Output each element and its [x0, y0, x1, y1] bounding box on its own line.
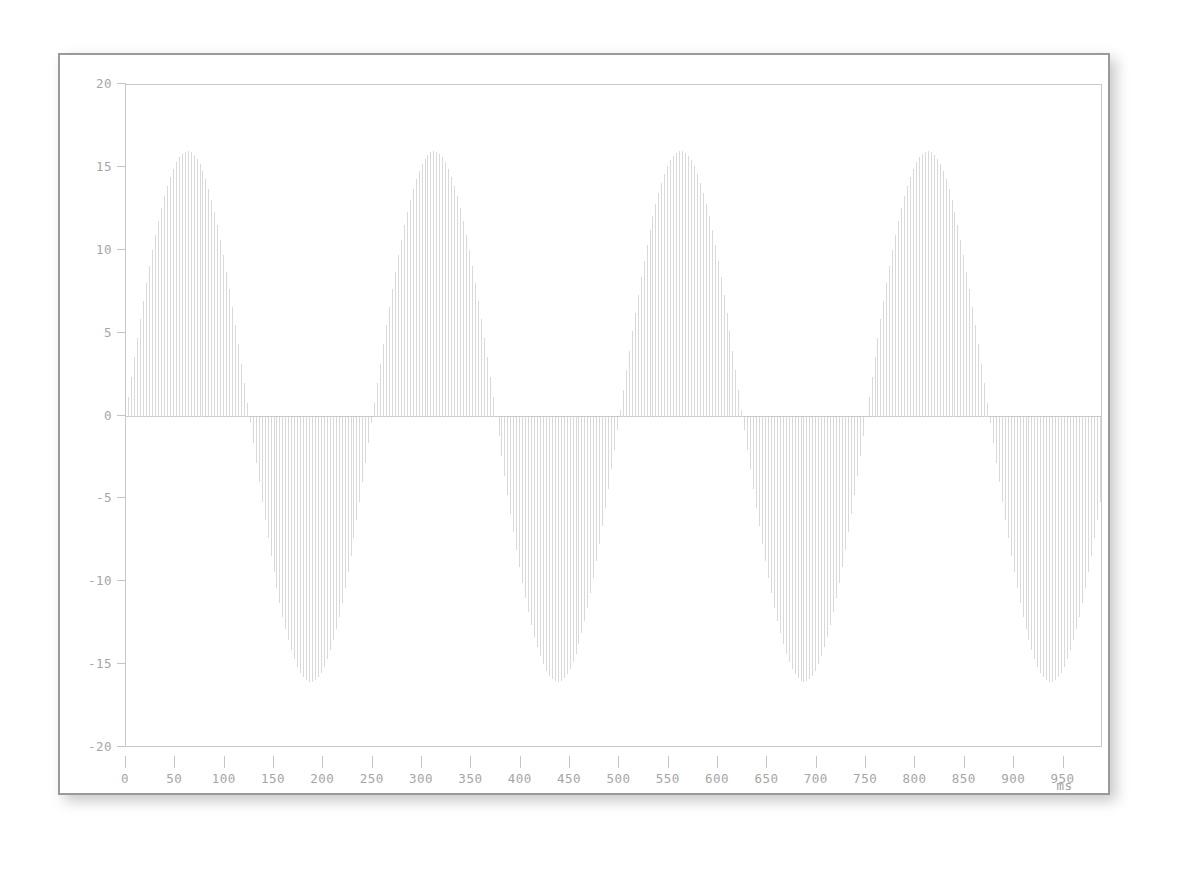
x-axis-tick-mark: [569, 756, 570, 768]
x-axis-tick-mark: [618, 756, 619, 768]
x-axis-tick-mark: [865, 756, 866, 768]
x-axis-tick-mark: [668, 756, 669, 768]
x-axis-unit-label: ms: [1056, 778, 1072, 793]
y-axis-tick-label: -10: [88, 574, 112, 588]
x-axis-tick-label: 550: [656, 771, 680, 786]
x-axis-tick-label: 500: [606, 771, 630, 786]
y-axis: 20151050-5-10-15-20: [60, 55, 126, 793]
x-axis-tick-label: 50: [166, 771, 182, 786]
x-axis-tick-label: 200: [310, 771, 334, 786]
x-axis-tick-label: 750: [853, 771, 877, 786]
x-axis-tick-mark: [125, 756, 126, 768]
x-axis-tick-label: 0: [121, 771, 129, 786]
plot-window: 20151050-5-10-15-20 05010015020025030035…: [58, 53, 1110, 795]
y-axis-tick-label: -15: [88, 657, 112, 671]
y-axis-tick-label: 10: [96, 243, 112, 257]
x-axis-tick-mark: [1013, 756, 1014, 768]
y-axis-tick-label: 20: [96, 77, 112, 91]
x-axis-tick-label: 250: [360, 771, 384, 786]
y-axis-tick-label: 5: [104, 326, 112, 340]
x-axis-tick-label: 100: [212, 771, 236, 786]
y-axis-tick-label: -5: [96, 491, 112, 505]
x-axis-tick-label: 400: [508, 771, 532, 786]
plot-window-root: 20151050-5-10-15-20 05010015020025030035…: [0, 0, 1179, 875]
x-axis-tick-mark: [520, 756, 521, 768]
x-axis-tick-mark: [322, 756, 323, 768]
x-axis-tick-mark: [766, 756, 767, 768]
x-axis-tick-label: 350: [458, 771, 482, 786]
figure-canvas: 20151050-5-10-15-20 05010015020025030035…: [60, 55, 1108, 793]
x-axis-tick-mark: [174, 756, 175, 768]
waveform-plot-area: [126, 85, 1101, 746]
x-axis-tick-label: 700: [804, 771, 828, 786]
x-axis-tick-label: 650: [754, 771, 778, 786]
x-axis-tick-mark: [421, 756, 422, 768]
x-axis-tick-mark: [816, 756, 817, 768]
x-axis-tick-mark: [964, 756, 965, 768]
x-axis-tick-mark: [470, 756, 471, 768]
y-axis-tick-label: 0: [104, 409, 112, 423]
x-axis-tick-label: 850: [952, 771, 976, 786]
x-axis-tick-label: 900: [1001, 771, 1025, 786]
x-axis-tick-label: 800: [902, 771, 926, 786]
waveform-stems: [126, 85, 1101, 746]
x-axis-tick-mark: [273, 756, 274, 768]
x-axis-tick-label: 150: [261, 771, 285, 786]
x-axis-tick-mark: [1063, 756, 1064, 768]
x-axis-tick-mark: [224, 756, 225, 768]
x-axis: 0501001502002503003504004505005506006507…: [60, 747, 1108, 807]
x-axis-tick-label: 450: [557, 771, 581, 786]
x-axis-tick-mark: [372, 756, 373, 768]
x-axis-tick-mark: [717, 756, 718, 768]
x-axis-tick-mark: [914, 756, 915, 768]
y-axis-tick-label: 15: [96, 160, 112, 174]
x-axis-tick-label: 300: [409, 771, 433, 786]
x-axis-tick-label: 600: [705, 771, 729, 786]
